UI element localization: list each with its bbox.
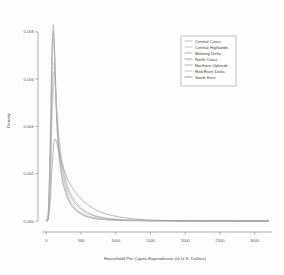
legend-label-3: North Coast bbox=[195, 57, 218, 62]
y-tick-label: 0.006 bbox=[24, 77, 35, 82]
y-tick-label: 0.004 bbox=[24, 124, 35, 129]
x-tick-label: 500 bbox=[78, 238, 86, 243]
x-tick-label: 2500 bbox=[215, 238, 225, 243]
legend-label-4: Northern Uplands bbox=[195, 63, 228, 68]
y-tick-label: 0.002 bbox=[24, 171, 35, 176]
density-plot-figure: 0.0000.0020.0040.0060.008 Density 050010… bbox=[0, 0, 284, 275]
legend-label-6: South East bbox=[195, 75, 216, 80]
y-tick-label: 0.008 bbox=[24, 29, 35, 34]
y-axis-ticks: 0.0000.0020.0040.0060.008 bbox=[24, 29, 38, 223]
chart-canvas: 0.0000.0020.0040.0060.008 Density 050010… bbox=[0, 0, 284, 275]
x-tick-label: 2000 bbox=[181, 238, 191, 243]
y-tick-label: 0.000 bbox=[24, 219, 35, 224]
y-axis-title: Density bbox=[6, 112, 11, 127]
density-curve-2 bbox=[46, 71, 268, 221]
density-curve-5 bbox=[46, 81, 268, 221]
x-tick-label: 1500 bbox=[146, 238, 156, 243]
x-axis: 050010001500200025003000 Household Per C… bbox=[42, 232, 272, 261]
x-tick-label: 0 bbox=[45, 238, 48, 243]
legend-label-0: Central Coast bbox=[195, 39, 221, 44]
x-tick-label: 3000 bbox=[250, 238, 260, 243]
legend-label-5: Red River Delta bbox=[195, 69, 225, 74]
y-axis: 0.0000.0020.0040.0060.008 Density bbox=[6, 29, 38, 223]
chart-legend: Central CoastCentral HighlandsMekong Del… bbox=[181, 36, 236, 86]
x-axis-title: Household Per Capita Expenditures (in U.… bbox=[104, 256, 207, 261]
legend-label-2: Mekong Delta bbox=[195, 51, 222, 56]
x-axis-ticks: 050010001500200025003000 bbox=[45, 232, 260, 243]
x-tick-label: 1000 bbox=[111, 238, 121, 243]
legend-label-1: Central Highlands bbox=[195, 45, 228, 50]
